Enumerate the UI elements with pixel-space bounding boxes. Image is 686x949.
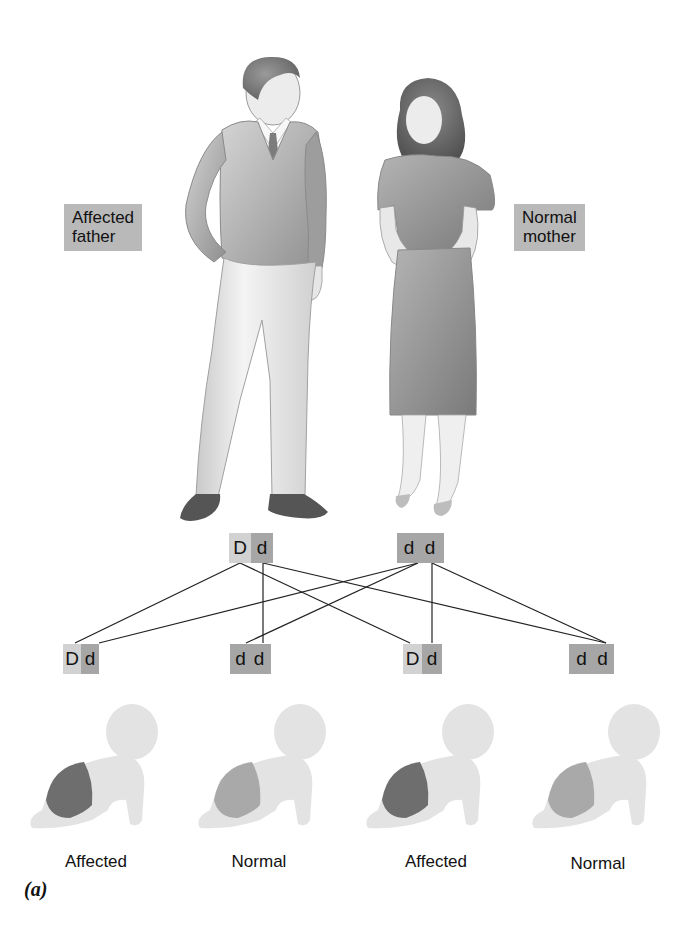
cross-lines [75, 563, 606, 643]
father-label-line1: Affected [72, 208, 134, 227]
offspring-3-phenotype: Affected [376, 852, 496, 872]
father-figure [180, 57, 328, 521]
mother-label: Normal mother [514, 204, 585, 251]
allele-recessive: d [594, 644, 611, 674]
offspring-2-genotype: d d [230, 644, 271, 674]
offspring-4-phenotype: Normal [538, 854, 658, 874]
allele-recessive: d [251, 644, 267, 674]
baby-2-figure [198, 704, 326, 828]
baby-4-figure [532, 704, 660, 828]
mother-genotype: d d [397, 533, 444, 563]
allele-dominant: D [229, 533, 251, 563]
mother-label-line2: mother [522, 227, 577, 246]
offspring-4-genotype: d d [569, 644, 614, 674]
allele-recessive: d [569, 644, 594, 674]
father-genotype: D d [229, 533, 273, 563]
allele-recessive: d [422, 644, 442, 674]
offspring-2-phenotype: Normal [199, 852, 319, 872]
offspring-1-phenotype: Affected [36, 852, 156, 872]
allele-recessive: d [230, 644, 251, 674]
inheritance-illustration [0, 0, 686, 949]
allele-recessive: d [397, 533, 421, 563]
allele-recessive: d [421, 533, 439, 563]
offspring-3-genotype: D d [403, 644, 442, 674]
offspring-1-genotype: D d [63, 644, 99, 674]
mother-label-line1: Normal [522, 208, 577, 227]
baby-3-figure [366, 704, 494, 828]
allele-dominant: D [403, 644, 422, 674]
allele-dominant: D [63, 644, 81, 674]
mother-figure [378, 78, 495, 516]
baby-1-figure [30, 704, 158, 828]
allele-recessive: d [251, 533, 273, 563]
panel-label: (a) [24, 878, 47, 901]
allele-recessive: d [81, 644, 99, 674]
father-label-line2: father [72, 227, 134, 246]
father-label: Affected father [64, 204, 142, 251]
